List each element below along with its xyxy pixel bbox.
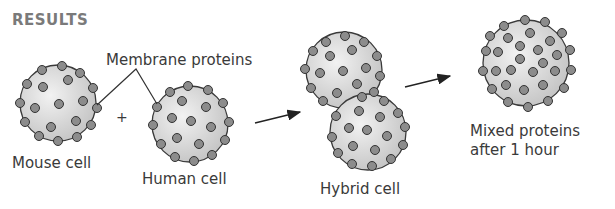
arrow-to-hybrid (255, 112, 300, 123)
mixed-cell (479, 16, 576, 112)
arrow-to-mixed (405, 76, 450, 87)
label-hybrid-cell: Hybrid cell (320, 180, 400, 198)
label-membrane-proteins: Membrane proteins (106, 51, 252, 69)
label-mouse-cell: Mouse cell (12, 154, 91, 172)
hybrid-cell (301, 32, 410, 171)
membrane-proteins-pointer (97, 69, 157, 105)
plus-sign: + (116, 108, 128, 126)
human-cell (149, 82, 234, 166)
label-human-cell: Human cell (142, 170, 227, 188)
label-mixed-line1: Mixed proteins (470, 122, 580, 140)
mouse-cell (16, 62, 102, 146)
cell-fusion-diagram (0, 0, 615, 209)
label-mixed-line2: after 1 hour (470, 141, 559, 159)
